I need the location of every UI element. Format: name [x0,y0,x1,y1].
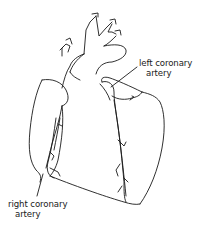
label-line: artery [8,209,67,219]
label-line: artery [139,68,192,78]
right-coronary-leader-line [37,174,43,196]
right-coronary-artery-label: right coronary artery [8,199,67,219]
ventricles [50,77,164,204]
great-vessels [60,13,126,88]
left-coronary-artery-label: left coronary artery [139,58,192,78]
heart-diagram: left coronary artery right coronary arte… [0,0,198,235]
left-coronary-leader-line [111,67,137,87]
label-line: left coronary [139,58,192,68]
label-line: right coronary [8,199,67,209]
